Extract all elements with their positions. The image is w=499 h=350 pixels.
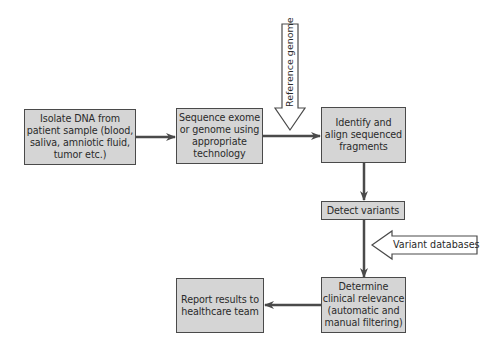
- node-determine-relevance: Determine clinical relevance (automatic …: [321, 277, 406, 333]
- node-align: Identify and align sequenced fragments: [321, 107, 406, 163]
- node-detect-variants: Detect variants: [321, 201, 405, 220]
- node-isolate-dna: Isolate DNA from patient sample (blood, …: [24, 109, 136, 165]
- variant-databases-label: Variant databases: [393, 239, 480, 250]
- node-report-results: Report results to healthcare team: [176, 278, 264, 333]
- node-sequence: Sequence exome or genome using appropria…: [176, 108, 263, 164]
- reference-genome-label: Reference genome: [284, 17, 295, 107]
